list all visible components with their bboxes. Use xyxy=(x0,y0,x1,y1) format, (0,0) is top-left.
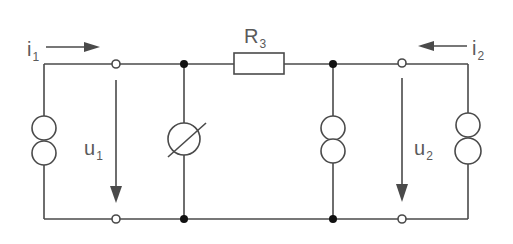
i1-label-sub: 1 xyxy=(32,50,39,64)
u2-label-sub: 2 xyxy=(426,149,433,163)
i2-label-sub: 2 xyxy=(477,49,484,63)
i2-label: i2 xyxy=(472,38,484,62)
resistor-r3-icon xyxy=(234,53,284,74)
u2-label-main: u xyxy=(414,137,425,159)
r3-label: R3 xyxy=(244,26,266,50)
u1-label-sub: 1 xyxy=(96,149,103,163)
middle-current-source-icon xyxy=(321,64,345,219)
terminal-2-top-icon xyxy=(398,59,406,67)
junction-dot-icon xyxy=(329,60,337,68)
right-current-source-icon xyxy=(455,64,481,219)
u1-label: u1 xyxy=(84,138,103,162)
terminal-2-bottom-icon xyxy=(398,215,406,223)
left-current-source-icon xyxy=(32,64,56,219)
circuit-diagram: i1 i2 R3 u1 u2 xyxy=(0,0,513,244)
variable-element-icon xyxy=(168,64,206,219)
r3-label-main: R xyxy=(244,25,258,47)
u1-arrow-head-icon xyxy=(110,186,122,203)
junction-dot-icon xyxy=(180,60,188,68)
junction-dot-icon xyxy=(329,215,337,223)
r3-label-sub: 3 xyxy=(259,37,266,51)
u2-arrow-head-icon xyxy=(396,184,408,202)
i1-arrow-head-icon xyxy=(84,42,100,52)
i2-arrow-head-icon xyxy=(418,41,434,51)
junction-dot-icon xyxy=(180,215,188,223)
terminal-1-bottom-icon xyxy=(112,215,120,223)
i1-label-main: i xyxy=(27,38,31,60)
i1-label: i1 xyxy=(27,39,39,63)
i2-label-main: i xyxy=(472,37,476,59)
u1-label-main: u xyxy=(84,137,95,159)
terminal-1-top-icon xyxy=(112,60,120,68)
u2-label: u2 xyxy=(414,138,433,162)
